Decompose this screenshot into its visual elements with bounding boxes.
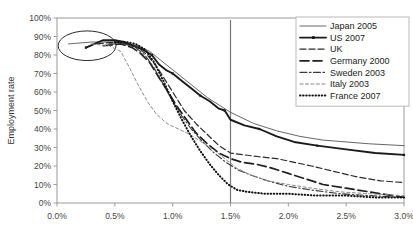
x-tick-label: 0.0% (47, 211, 67, 221)
series-marker (85, 47, 87, 49)
legend-marker (312, 36, 315, 39)
series-marker (224, 109, 226, 111)
series-marker (199, 95, 201, 97)
x-tick-label: 0.5% (105, 211, 125, 221)
y-tick-label: 90% (34, 32, 51, 42)
x-tick-label: 1.5% (221, 211, 241, 221)
x-tick-label: 3.0% (394, 211, 413, 221)
series-marker (316, 145, 318, 147)
y-tick-label: 100% (29, 13, 51, 23)
y-tick-label: 10% (34, 180, 51, 190)
legend-label: Italy 2003 (330, 79, 369, 89)
series-marker (151, 54, 153, 56)
y-tick-label: 80% (34, 50, 51, 60)
series-marker (403, 154, 405, 156)
series-marker (172, 72, 174, 74)
legend-label: France 2007 (330, 91, 381, 101)
x-tick-label: 1.0% (163, 211, 183, 221)
y-tick-label: 0% (39, 198, 52, 208)
chart-container: 0%10%20%30%40%50%60%70%80%90%100%0.0%0.5… (0, 0, 413, 235)
y-tick-label: 30% (34, 143, 51, 153)
legend-label: Germany 2000 (330, 56, 390, 66)
series-marker (258, 128, 260, 130)
legend-label: Japan 2005 (330, 21, 377, 31)
legend-label: Sweden 2003 (330, 68, 385, 78)
y-tick-label: 70% (34, 69, 51, 79)
y-tick-label: 20% (34, 161, 51, 171)
y-tick-label: 50% (34, 106, 51, 116)
x-tick-label: 2.0% (279, 211, 299, 221)
y-tick-label: 60% (34, 87, 51, 97)
legend-label: US 2007 (330, 33, 365, 43)
employment-rate-line-chart: 0%10%20%30%40%50%60%70%80%90%100%0.0%0.5… (0, 0, 413, 235)
legend-label: UK (330, 44, 343, 54)
y-tick-label: 40% (34, 124, 51, 134)
x-tick-label: 2.5% (336, 211, 356, 221)
y-axis-title: Employment rate (6, 76, 16, 144)
